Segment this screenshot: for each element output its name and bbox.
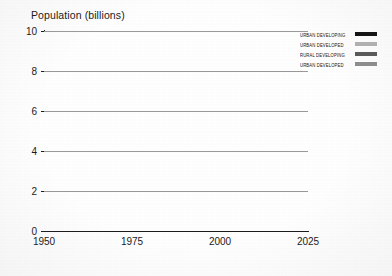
y-axis-tick-mark bbox=[41, 31, 44, 32]
y-axis-tick-mark bbox=[41, 71, 44, 72]
y-axis-tick-label: 2 bbox=[31, 186, 37, 197]
plot-background bbox=[44, 31, 308, 231]
chart-axis-title: Population (billions) bbox=[31, 9, 125, 21]
population-line-chart: Population (billions) 0246810 1950197520… bbox=[0, 0, 392, 276]
gridline bbox=[44, 31, 308, 32]
x-axis-line bbox=[44, 231, 309, 232]
legend-color-swatch bbox=[355, 52, 377, 57]
legend-item: URBAN DEVELOPED bbox=[300, 40, 377, 48]
x-axis-tick-label: 1975 bbox=[121, 236, 143, 247]
y-axis-tick-mark bbox=[41, 191, 44, 192]
y-axis-tick-mark bbox=[41, 151, 44, 152]
legend-item-label: URBAN DEVELOPED bbox=[300, 61, 352, 68]
x-axis-tick-label: 1950 bbox=[33, 236, 55, 247]
y-axis-tick-label: 8 bbox=[31, 66, 37, 77]
legend-item: URBAN DEVELOPING bbox=[300, 30, 377, 38]
legend-color-swatch bbox=[355, 32, 377, 37]
gridline bbox=[44, 71, 308, 72]
chart-legend: URBAN DEVELOPINGURBAN DEVELOPEDRURAL DEV… bbox=[300, 30, 377, 68]
y-axis-tick-label: 4 bbox=[31, 146, 37, 157]
legend-color-swatch bbox=[355, 62, 377, 67]
x-axis-tick-label: 2000 bbox=[209, 236, 231, 247]
y-axis-tick-mark bbox=[41, 231, 44, 232]
gridline bbox=[44, 191, 308, 192]
gridline bbox=[44, 151, 308, 152]
legend-item: URBAN DEVELOPED bbox=[300, 60, 377, 68]
legend-color-swatch bbox=[355, 42, 377, 47]
legend-item: RURAL DEVELOPING bbox=[300, 50, 377, 58]
y-axis-tick-label: 10 bbox=[26, 26, 37, 37]
gridline bbox=[44, 111, 308, 112]
legend-item-label: URBAN DEVELOPING bbox=[300, 31, 352, 38]
x-axis-tick-label: 2025 bbox=[297, 236, 319, 247]
y-axis-tick-label: 0 bbox=[31, 226, 37, 237]
legend-item-label: RURAL DEVELOPING bbox=[300, 51, 352, 58]
y-axis-tick-mark bbox=[41, 111, 44, 112]
y-axis-tick-label: 6 bbox=[31, 106, 37, 117]
legend-item-label: URBAN DEVELOPED bbox=[300, 41, 352, 48]
plot-area bbox=[44, 31, 308, 231]
